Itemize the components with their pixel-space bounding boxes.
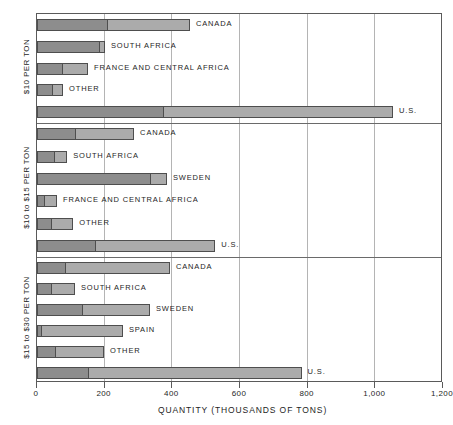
bar xyxy=(37,325,124,337)
bar-segment-upper xyxy=(163,106,393,118)
bar-segment-upper xyxy=(75,128,134,140)
bar-segment-upper xyxy=(51,218,73,230)
x-axis-tick xyxy=(171,382,172,388)
x-axis-title-text: QUANTITY (THOUSANDS OF TONS) xyxy=(124,405,327,415)
bar xyxy=(37,173,168,185)
bar-segment-upper xyxy=(150,173,167,185)
bar-segment-lower xyxy=(37,283,52,295)
bar-segment-upper xyxy=(82,304,150,316)
x-axis-tick xyxy=(307,382,308,388)
bar-category-label: CANADA xyxy=(140,127,176,139)
bar-segment-lower xyxy=(37,19,108,31)
bar-segment-lower xyxy=(37,218,52,230)
bar-segment-upper xyxy=(99,41,105,53)
bar-segment-lower xyxy=(37,128,76,140)
panel-label-2: $15 to $30 PER TON xyxy=(22,255,31,381)
x-axis-tick-label: 600 xyxy=(232,389,247,398)
bar-segment-lower xyxy=(37,151,55,163)
bar-category-label: SPAIN xyxy=(129,324,155,336)
x-axis-tick xyxy=(442,382,443,388)
bar xyxy=(37,240,216,252)
bar-category-label: SOUTH AFRICA xyxy=(81,282,147,294)
bar-category-label: SOUTH AFRICA xyxy=(111,40,177,52)
bar-category-label: FRANCE AND CENTRAL AFRICA xyxy=(94,62,230,74)
bar-category-label: CANADA xyxy=(196,18,232,30)
x-axis-tick-label: 200 xyxy=(96,389,111,398)
bar-segment-lower xyxy=(37,304,83,316)
bar-segment-upper xyxy=(44,195,57,207)
bar-category-label: FRANCE AND CENTRAL AFRICA xyxy=(63,194,199,206)
bar-category-label: SWEDEN xyxy=(173,172,211,184)
bar-segment-upper xyxy=(52,84,63,96)
panel-label-0: $10 PER TON xyxy=(22,12,31,121)
panel-label-1: $10 to $15 PER TON xyxy=(22,121,31,255)
bar-segment-upper xyxy=(62,63,88,75)
bar xyxy=(37,195,58,207)
x-axis-tick-label: 800 xyxy=(299,389,314,398)
x-axis-tick xyxy=(104,382,105,388)
x-axis-tick-label: 1,200 xyxy=(431,389,453,398)
bar xyxy=(37,304,151,316)
bar xyxy=(37,84,64,96)
gridline xyxy=(307,14,308,381)
bar-category-label: SWEDEN xyxy=(156,303,194,315)
bar-segment-lower xyxy=(37,106,164,118)
bar-segment-upper xyxy=(65,262,170,274)
bar xyxy=(37,218,74,230)
bar-category-label: U.S. xyxy=(221,239,239,251)
bar-segment-upper xyxy=(54,151,67,163)
bar-segment-lower xyxy=(37,367,89,379)
bar-segment-upper xyxy=(41,325,123,337)
x-axis-tick-label: 400 xyxy=(164,389,179,398)
bar-category-label: CANADA xyxy=(176,261,212,273)
bar-segment-lower xyxy=(37,240,96,252)
bar-category-label: U.S. xyxy=(308,366,326,378)
bar-segment-upper xyxy=(55,346,104,358)
bar-segment-lower xyxy=(37,63,63,75)
bar xyxy=(37,41,106,53)
bar xyxy=(37,283,76,295)
x-axis-tick-label: 0 xyxy=(34,389,39,398)
panel-divider xyxy=(37,257,441,258)
bar xyxy=(37,19,191,31)
bar-segment-lower xyxy=(37,173,151,185)
gridline xyxy=(374,14,375,381)
bar-category-label: U.S. xyxy=(399,105,417,117)
bar xyxy=(37,151,68,163)
bar-segment-upper xyxy=(88,367,301,379)
bar xyxy=(37,128,135,140)
gridline xyxy=(239,14,240,381)
bar xyxy=(37,262,171,274)
x-axis-tick xyxy=(239,382,240,388)
x-axis-tick-label: 1,000 xyxy=(363,389,385,398)
bar-segment-upper xyxy=(107,19,190,31)
bar xyxy=(37,346,105,358)
x-axis-title: QUANTITY (THOUSANDS OF TONS) xyxy=(0,405,451,415)
bar-segment-lower xyxy=(37,262,66,274)
panel-divider xyxy=(37,123,441,124)
bar-segment-lower xyxy=(37,84,53,96)
bar-segment-upper xyxy=(51,283,75,295)
bar-category-label: OTHER xyxy=(79,217,110,229)
bar xyxy=(37,106,394,118)
bar-segment-upper xyxy=(95,240,215,252)
bar-segment-lower xyxy=(37,41,100,53)
bar-segment-lower xyxy=(37,346,56,358)
bar xyxy=(37,367,303,379)
x-axis-tick xyxy=(374,382,375,388)
bar-category-label: OTHER xyxy=(110,345,141,357)
bar xyxy=(37,63,89,75)
bar-category-label: SOUTH AFRICA xyxy=(73,150,139,162)
x-axis-tick xyxy=(36,382,37,388)
bar-category-label: OTHER xyxy=(69,83,100,95)
